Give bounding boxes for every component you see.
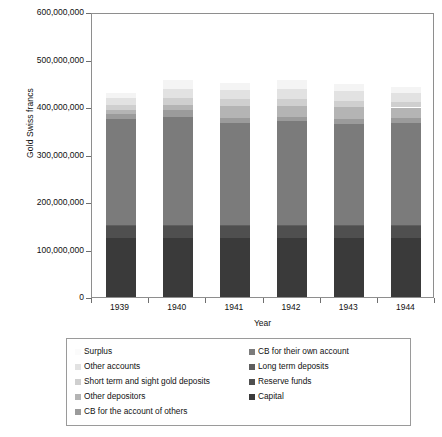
bar-segment [163,238,193,297]
bar-1944 [391,87,421,297]
bar-segment [163,98,193,105]
legend-item: Capital [249,389,409,404]
legend-label: Surplus [84,344,112,359]
bar-segment [334,225,364,226]
legend-swatch-icon [249,349,255,355]
legend-label: Other depositors [84,389,145,404]
bar-segment [106,110,136,114]
legend-label: CB for the account of others [84,404,187,419]
bar-segment [163,89,193,99]
bar-segment [334,226,364,237]
bar-segment [220,90,250,99]
bar-segment [106,226,136,237]
chart-figure: Gold Swiss francs 0100,000,000200,000,00… [0,0,442,437]
bar-segment [334,91,364,101]
bar-segment [277,99,307,106]
bar-segment [163,225,193,226]
x-tick-label: 1944 [375,302,435,312]
bar-segment [277,106,307,116]
legend-swatch-icon [75,409,81,415]
bar-segment [391,118,421,123]
bar-segment [220,118,250,123]
y-tick-label: 400,000,000 [0,102,84,112]
bar-segment [277,238,307,297]
bar-1940 [163,80,193,297]
bar-segment [391,93,421,102]
bar-segment [106,114,136,120]
bar-segment [277,89,307,99]
bar-segment [391,238,421,297]
bar-segment [106,119,136,224]
bar-segment [106,225,136,226]
legend-label: Long term deposits [258,359,329,374]
bar-segment [334,124,364,225]
bar-segment [220,225,250,226]
bar-segment [220,83,250,91]
y-tick-label: 100,000,000 [0,245,84,255]
bar-segment [220,106,250,118]
bar-1943 [334,84,364,297]
bar-segment [334,101,364,108]
x-axis-title: Year [91,318,434,328]
legend-label: Capital [258,389,284,404]
y-tick-label: 200,000,000 [0,197,84,207]
bar-segment [106,105,136,110]
bar-segment [163,226,193,237]
legend-item: Other depositors [75,389,255,404]
bar-1942 [277,80,307,297]
bar-segment [391,123,421,225]
bar-segment [220,238,250,297]
legend-swatch-icon [75,364,81,370]
bar-segment [220,226,250,237]
chart-legend: SurplusOther accountsShort term and sigh… [66,338,411,426]
bar-1941 [220,83,250,297]
legend-item: Reserve funds [249,374,409,389]
legend-item: Long term deposits [249,359,409,374]
legend-swatch-icon [75,349,81,355]
legend-item: CB for the account of others [75,404,255,419]
bar-segment [277,121,307,225]
legend-column-right: CB for their own accountLong term deposi… [249,344,409,404]
bar-segment [277,80,307,89]
x-tick-label: 1940 [147,302,207,312]
x-tick-label: 1942 [261,302,321,312]
bar-segment [391,87,421,94]
bar-segment [391,102,421,108]
bar-segment [106,238,136,297]
bar-segment [334,107,364,118]
legend-swatch-icon [249,379,255,385]
bar-segment [220,123,250,225]
legend-label: CB for their own account [258,344,349,359]
legend-swatch-icon [249,394,255,400]
bar-segment [391,226,421,237]
legend-label: Other accounts [84,359,140,374]
legend-column-left: SurplusOther accountsShort term and sigh… [75,344,255,419]
x-tick-label: 1939 [90,302,150,312]
plot-area [91,13,434,298]
legend-label: Reserve funds [258,374,312,389]
y-tick-label: 300,000,000 [0,150,84,160]
legend-item: Surplus [75,344,255,359]
y-axis-title: Gold Swiss francs [25,48,35,198]
legend-item: Other accounts [75,359,255,374]
bar-segment [334,84,364,92]
x-tick-label: 1941 [204,302,264,312]
legend-swatch-icon [75,379,81,385]
legend-swatch-icon [249,364,255,370]
y-tick-label: 500,000,000 [0,55,84,65]
legend-item: CB for their own account [249,344,409,359]
bar-segment [277,117,307,122]
y-tick-label: 600,000,000 [0,7,84,17]
bar-segment [106,93,136,99]
bar-segment [220,99,250,106]
bar-segment [163,80,193,89]
legend-label: Short term and sight gold deposits [84,374,210,389]
x-tick-label: 1943 [318,302,378,312]
bar-segment [106,98,136,105]
bar-segment [334,119,364,124]
bar-segment [334,238,364,297]
legend-swatch-icon [75,394,81,400]
bar-segment [277,225,307,226]
bar-segment [391,108,421,118]
legend-item: Short term and sight gold deposits [75,374,255,389]
